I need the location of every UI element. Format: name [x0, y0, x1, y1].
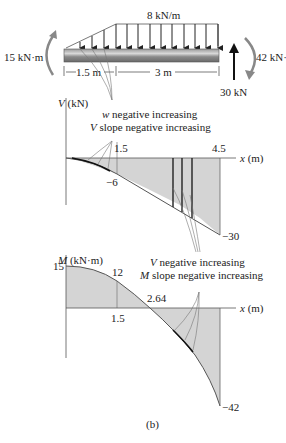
- dim-left-label: 1.5 m: [76, 66, 102, 78]
- dim-right-label: 3 m: [155, 66, 172, 78]
- moment-negative-area: [150, 308, 220, 406]
- value-2.64: 2.64: [147, 292, 167, 304]
- reaction-label: 30 kN: [220, 86, 247, 98]
- value-12: 12: [112, 266, 123, 278]
- figure-caption: (b): [146, 418, 159, 431]
- right-moment-arrow-icon: [245, 38, 255, 74]
- reaction-arrowhead-icon: [229, 43, 239, 53]
- left-moment-label: 15 kN·m: [4, 51, 44, 63]
- left-moment-arrow-icon: [47, 36, 54, 75]
- shear-annotation-line2: V slope negative increasing: [90, 121, 211, 133]
- value-minus6: −6: [106, 176, 118, 188]
- shear-area: [66, 158, 220, 235]
- moment-positive-area: [66, 266, 150, 308]
- right-moment-label: 42 kN·: [256, 51, 286, 63]
- moment-annotation-line1: V negative increasing: [150, 256, 245, 268]
- moment-diagram: M (kN·m) 15 12 V negative increasing M s…: [53, 254, 264, 413]
- value-minus30: −30: [222, 230, 240, 242]
- value-minus42: −42: [222, 401, 239, 413]
- x-axis-label-v: x (m): [239, 152, 264, 165]
- shear-diagram: V (kN) w negative increasing V slope neg…: [58, 97, 264, 252]
- shear-annotation-line1: w negative increasing: [102, 108, 198, 120]
- distributed-load-arrows: [80, 24, 218, 48]
- tick-label-4.5-v: 4.5: [212, 142, 226, 154]
- beam: [64, 49, 219, 62]
- value-15: 15: [53, 260, 65, 272]
- tick-label-1.5-m: 1.5: [111, 312, 125, 324]
- tick-label-1.5-v: 1.5: [114, 142, 128, 154]
- distributed-load-label: 8 kN/m: [147, 9, 181, 21]
- x-axis-label-m: x (m): [239, 302, 264, 315]
- moment-annotation-line2: M slope negative increasing: [139, 269, 264, 281]
- right-moment-arrowhead-icon: [245, 70, 255, 80]
- beam-diagram-figure: 8 kN/m 15 kN·m 30 kN 42 kN· 1.5 m 3 m: [0, 0, 286, 443]
- loading-diagram: 8 kN/m 15 kN·m 30 kN 42 kN· 1.5 m 3 m: [4, 9, 286, 100]
- v-axis-label: V (kN): [58, 97, 89, 110]
